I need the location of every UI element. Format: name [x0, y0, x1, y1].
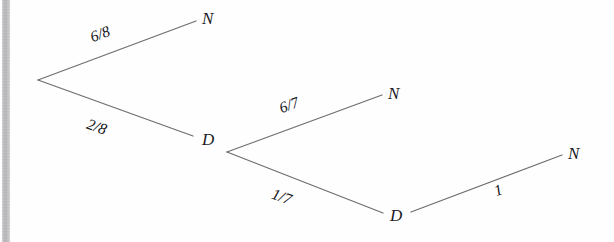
branch-root-n	[38, 21, 196, 80]
branch-d1-n	[227, 95, 382, 152]
branch-root-d	[38, 80, 193, 136]
branch-d1-d	[227, 152, 383, 213]
node-label-n-level1: N	[202, 10, 214, 27]
probability-tree-figure: N D N D N 6/8 2/8 6/7 1/7 1	[0, 0, 614, 242]
node-label-n-level3: N	[568, 145, 580, 162]
node-label-d-level2: D	[390, 207, 403, 224]
node-label-d-level1: D	[202, 131, 215, 148]
node-label-n-level2: N	[388, 85, 400, 102]
branch-d2-n	[411, 155, 562, 212]
